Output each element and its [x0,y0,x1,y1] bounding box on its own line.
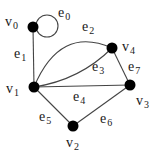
vertex-label-v4: v4 [122,40,135,56]
edge-e1 [33,27,34,87]
edge-label-e3: e3 [92,60,104,76]
vertex-v0 [28,22,39,33]
vertex-v1 [29,82,40,93]
edge-label-e5: e5 [39,110,51,126]
edge-label-e7: e7 [128,60,140,76]
edge-e0-loop [36,15,58,37]
vertex-v4 [107,43,118,54]
edge-label-e2: e2 [82,20,94,36]
edge-e4 [34,85,130,87]
vertex-label-v3: v3 [136,94,149,110]
edge-label-e6: e6 [100,112,112,128]
vertex-v3 [125,80,136,91]
edge-label-e1: e1 [14,47,26,63]
vertex-label-v2: v2 [66,136,79,152]
edge-label-e0: e0 [58,6,70,22]
vertex-label-v1: v1 [6,82,19,98]
vertex-v2 [68,121,79,132]
edge-label-e4: e4 [73,90,85,106]
vertex-label-v0: v0 [5,15,18,31]
